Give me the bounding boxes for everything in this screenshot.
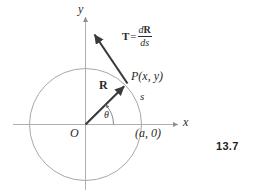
fraction-numerator: dR <box>138 25 152 36</box>
intercept-label: (a, 0) <box>135 127 161 139</box>
arc-length-label: s <box>140 91 144 102</box>
theta-label: θ <box>104 110 109 120</box>
equals-sign: = <box>130 31 136 42</box>
tangent-vector-equation: T = dR ds <box>122 25 152 48</box>
origin-label: O <box>70 127 79 139</box>
x-axis-label: x <box>183 116 188 128</box>
figure-page: y x O θ P(x, y) s (a, 0) R T = dR ds 13.… <box>0 0 266 193</box>
numerator-vector-r: R <box>144 24 151 35</box>
derivative-fraction: dR ds <box>138 25 152 48</box>
point-p-label: P(x, y) <box>131 70 163 82</box>
figure-number: 13.7 <box>216 140 239 152</box>
y-axis-label: y <box>78 3 83 15</box>
position-vector-label: R <box>99 79 108 91</box>
fraction-denominator: ds <box>139 37 150 48</box>
tangent-vector-label: T <box>122 31 129 42</box>
